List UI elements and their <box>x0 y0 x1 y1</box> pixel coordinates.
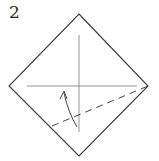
paper-square <box>9 14 148 156</box>
fold-arrow-icon <box>60 91 77 127</box>
valley-fold-line <box>52 86 148 126</box>
origami-diagram <box>0 0 159 161</box>
